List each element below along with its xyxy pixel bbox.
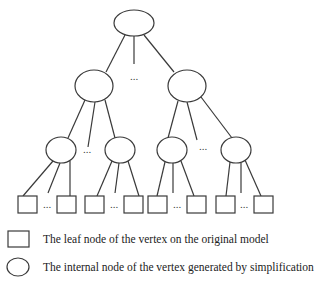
- legend: The leaf node of the vertex on the origi…: [7, 231, 314, 276]
- leaf-nodes: [18, 196, 273, 213]
- edge-n2-open: [187, 102, 197, 140]
- edge-n21-l5: [157, 162, 165, 196]
- root-node: [114, 10, 154, 36]
- edge-n12-l4: [128, 161, 139, 196]
- leaf-node-l7: [216, 196, 235, 213]
- internal-node-n11: [46, 137, 76, 163]
- leaf-node-l8: [254, 196, 273, 213]
- edge-n1-open: [88, 102, 95, 147]
- internal-node-n12: [105, 137, 135, 163]
- edges: [23, 35, 261, 196]
- edge-n12-l3: [97, 161, 112, 196]
- edge-root-n2: [144, 35, 174, 72]
- edge-n1-n12: [105, 100, 115, 138]
- ellipsis-marker: ...: [173, 198, 182, 210]
- edge-n1-n11: [68, 100, 85, 138]
- edge-root-n1: [106, 35, 125, 72]
- ellipsis-marker: ...: [130, 70, 139, 82]
- legend-label-internal: The internal node of the vertex generate…: [43, 261, 314, 274]
- leaf-node-l3: [85, 196, 104, 213]
- internal-node-n21: [157, 137, 187, 163]
- continuation-markers: ... ... ... ... ... ... ...: [43, 70, 249, 210]
- leaf-node-l4: [124, 196, 143, 213]
- legend-item-internal: The internal node of the vertex generate…: [7, 258, 314, 276]
- edge-n11-open: [48, 163, 60, 193]
- internal-node-n1: [75, 70, 113, 102]
- ellipsis-marker: ...: [199, 140, 208, 152]
- internal-node-n22: [221, 137, 251, 163]
- edge-n22-l8: [245, 160, 261, 196]
- edge-n22-l7: [226, 162, 230, 196]
- edge-n2-n22: [201, 97, 232, 138]
- square-icon: [8, 231, 29, 247]
- leaf-node-l2: [57, 196, 76, 213]
- edge-n2-n21: [168, 101, 178, 138]
- leaf-node-l6: [187, 196, 206, 213]
- leaf-node-l1: [18, 196, 37, 213]
- vertex-tree-diagram: ... ... ... ... ... ... ... The leaf nod…: [0, 0, 330, 301]
- ellipsis-marker: ...: [240, 198, 249, 210]
- ellipsis-marker: ...: [43, 198, 52, 210]
- ellipsis-marker: ...: [83, 143, 92, 155]
- internal-nodes: [46, 10, 251, 163]
- legend-item-leaf: The leaf node of the vertex on the origi…: [8, 231, 269, 247]
- edge-n21-l6: [181, 161, 194, 196]
- circle-icon: [7, 258, 29, 276]
- leaf-node-l5: [148, 196, 167, 213]
- ellipsis-marker: ...: [110, 198, 119, 210]
- internal-node-n2: [168, 70, 206, 102]
- legend-label-leaf: The leaf node of the vertex on the origi…: [43, 233, 269, 246]
- edge-n12-open: [115, 163, 119, 193]
